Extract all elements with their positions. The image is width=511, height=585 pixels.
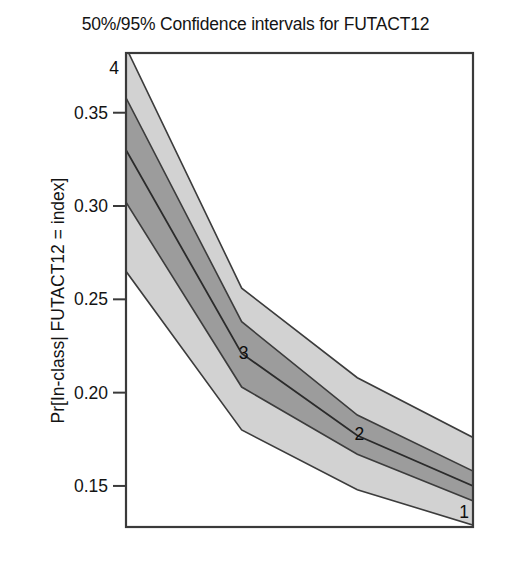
y-axis-ticks (113, 113, 126, 486)
plot-area (0, 0, 511, 585)
chart-figure: 50%/95% Confidence intervals for FUTACT1… (0, 0, 511, 585)
